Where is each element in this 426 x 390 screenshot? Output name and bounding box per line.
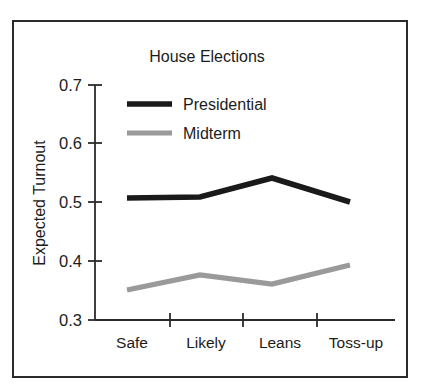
legend-label-presidential: Presidential [183,96,267,113]
y-tick-label-0.7: 0.7 [59,76,82,94]
chart-legend: Presidential Midterm [127,96,267,142]
y-axis-title: Expected Turnout [31,140,48,266]
x-tick-label-likely: Likely [186,334,226,351]
y-tick-label-0.4: 0.4 [59,252,82,270]
series-line-midterm [127,265,350,290]
x-tick-label-leans: Leans [259,334,301,351]
series-line-presidential [127,178,350,202]
x-tick-label-safe: Safe [116,334,148,351]
line-chart: House Elections 0.7 0.6 0.5 0.4 0.3 [0,0,426,390]
legend-label-midterm: Midterm [183,125,241,142]
y-tick-label-0.3: 0.3 [59,311,82,329]
x-axis-tick-labels: Safe Likely Leans Toss-up [116,334,383,351]
figure-root: House Elections 0.7 0.6 0.5 0.4 0.3 [0,0,426,390]
y-tick-label-0.6: 0.6 [59,134,82,152]
chart-title: House Elections [149,48,265,65]
y-tick-label-0.5: 0.5 [59,193,82,211]
x-tick-label-tossup: Toss-up [329,334,383,351]
y-axis-tick-labels: 0.7 0.6 0.5 0.4 0.3 [59,76,82,329]
